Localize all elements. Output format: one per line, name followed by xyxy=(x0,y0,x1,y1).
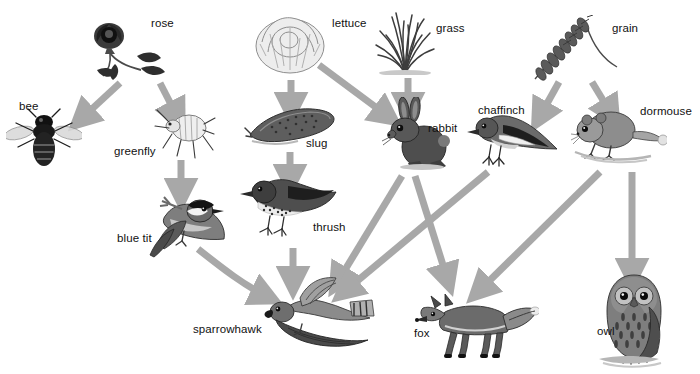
label-bee: bee xyxy=(19,100,39,112)
lettuce-art xyxy=(248,8,332,76)
arrow-rabbit-to-sparrowhawk xyxy=(337,176,402,283)
food-web-diagram: rose lettuce xyxy=(0,0,700,374)
blue-tit-art xyxy=(140,195,236,261)
label-grain: grain xyxy=(612,22,638,34)
label-grass: grass xyxy=(436,22,465,34)
label-greenfly: greenfly xyxy=(114,145,156,157)
grain-art xyxy=(523,15,623,87)
label-thrush: thrush xyxy=(313,221,346,233)
label-chaffinch: chaffinch xyxy=(478,104,525,116)
label-blue-tit: blue tit xyxy=(117,232,152,244)
owl-art xyxy=(597,271,671,369)
arrow-rose-to-bee xyxy=(80,83,120,120)
rose-art xyxy=(85,20,175,80)
grass-art xyxy=(362,11,448,75)
label-dormouse: dormouse xyxy=(640,105,692,117)
label-owl: owl xyxy=(597,325,615,337)
arrow-dormouse-to-fox xyxy=(478,172,600,292)
arrow-rabbit-to-fox xyxy=(415,176,448,281)
label-sparrowhawk: sparrowhawk xyxy=(193,323,262,335)
sparrowhawk-art xyxy=(258,274,378,354)
label-slug: slug xyxy=(306,137,328,149)
label-fox: fox xyxy=(414,327,430,339)
label-rabbit: rabbit xyxy=(428,122,457,134)
fox-art xyxy=(415,290,539,362)
bee-art xyxy=(6,107,82,169)
label-rose: rose xyxy=(151,17,174,29)
rabbit-art xyxy=(380,97,450,173)
greenfly-art xyxy=(151,104,217,160)
chaffinch-art xyxy=(465,109,561,171)
